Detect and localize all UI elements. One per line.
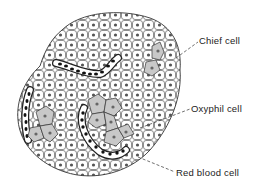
label-red-blood-cell: Red blood cell <box>176 167 239 178</box>
parathyroid-diagram <box>0 0 263 189</box>
leader-line-rbc <box>138 157 175 172</box>
tissue-mass <box>0 0 263 189</box>
label-oxyphil-cell: Oxyphil cell <box>191 103 242 114</box>
leader-line-chief <box>176 42 198 58</box>
label-chief-cell: Chief cell <box>199 35 240 46</box>
